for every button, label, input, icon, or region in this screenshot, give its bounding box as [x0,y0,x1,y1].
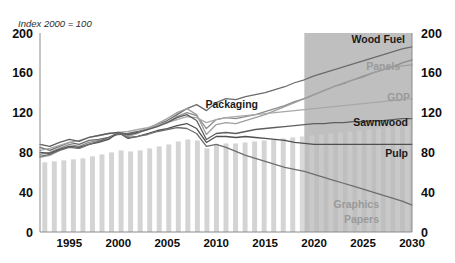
bar [119,150,124,232]
y-tick-left: 120 [12,106,33,120]
bar [328,133,333,232]
bar [52,161,57,232]
series-label-panels: Panels [366,60,400,72]
bar [204,148,209,232]
y-tick-right: 120 [421,106,442,120]
bar [214,144,219,232]
y-tick-left: 160 [12,66,33,80]
bar [147,148,152,232]
y-tick-right: 160 [421,66,442,80]
bar [157,146,162,232]
bar [395,127,400,232]
y-tick-left: 80 [19,146,33,160]
y-tick-right: 200 [421,27,442,41]
series-label-pulp: Pulp [385,147,408,159]
bar [166,144,171,232]
y-tick-left: 0 [26,226,33,240]
x-tick: 2020 [301,237,327,249]
bar [176,141,181,232]
bar [100,154,105,232]
bar [281,138,286,232]
series-label-graphics: Graphics [333,198,379,210]
series-label-gdp: GDP [387,91,410,103]
y-tick-left: 40 [19,186,33,200]
x-tick: 1995 [57,237,83,249]
bar [290,137,295,232]
bar [195,140,200,232]
x-tick: 2015 [252,237,278,249]
bar [109,152,114,232]
bar [252,141,257,232]
series-label-papers: Papers [344,213,379,225]
x-tick: 2005 [154,237,180,249]
bar [71,159,76,232]
bar [224,143,229,232]
x-tick: 2030 [399,237,425,249]
forest-products-index-chart: 20016012080400 20016012080400 1995200020… [0,0,455,263]
index-note: Index 2000 = 100 [18,18,92,29]
y-tick-right: 80 [421,146,435,160]
bar [300,136,305,232]
bar [386,128,391,232]
series-label-packaging: Packaging [205,98,258,110]
chart-container: 20016012080400 20016012080400 1995200020… [0,0,455,263]
bar [271,139,276,232]
bar [61,160,66,232]
x-tick: 2025 [350,237,376,249]
bar [138,150,143,232]
bar [185,139,190,232]
bar [262,140,267,232]
bar [42,162,47,232]
bar [90,156,95,232]
series-label-sawnwood: Sawnwood [353,116,408,128]
bar [128,151,133,232]
bar [405,126,410,232]
x-tick: 2000 [106,237,132,249]
y-tick-right: 40 [421,186,435,200]
bar [80,158,85,232]
bar [319,134,324,232]
bar [233,143,238,232]
x-tick: 2010 [203,237,229,249]
bar [309,135,314,232]
series-label-wood-fuel: Wood Fuel [352,33,406,45]
